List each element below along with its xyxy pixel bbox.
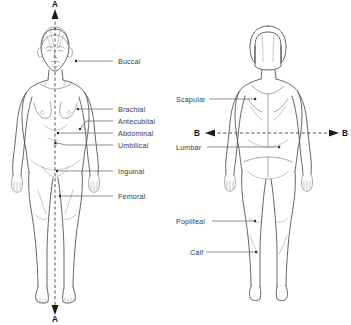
hair-strand-3 (57, 29, 60, 47)
posterior-leg-left-inner (260, 179, 266, 287)
anterior-breast-left (34, 102, 51, 118)
anterior-knee-right (64, 214, 76, 219)
leader-dot (255, 251, 258, 254)
posterior-foot-left (250, 286, 261, 301)
posterior-neck-left (261, 70, 262, 79)
anterior-toes-left (37, 299, 46, 303)
anterior-leg-left-outer (29, 172, 38, 287)
hair-strand-4 (59, 32, 65, 48)
anterior-breast-right (60, 102, 77, 118)
posterior-hair-part-2 (273, 35, 274, 62)
posterior-hair-part-1 (262, 35, 263, 62)
anterior-callouts: Buccal Brachial Antecubital Abdominal (54, 57, 155, 201)
posterior-popliteal-right (277, 218, 288, 222)
hair-strand-2 (50, 29, 54, 47)
posterior-trapezius (252, 86, 284, 94)
anterior-neck-right (62, 70, 63, 80)
callout-popliteal: Popliteal (176, 217, 256, 226)
label-abdominal: Abdominal (118, 129, 154, 138)
posterior-leg-right-inner (271, 179, 277, 287)
posterior-leg-left-outer (242, 171, 251, 286)
label-antecubital: Antecubital (118, 117, 155, 126)
callout-buccal: Buccal (75, 57, 141, 66)
anterior-leg-right-outer (73, 172, 82, 287)
callout-abdominal: Abdominal (57, 129, 154, 138)
posterior-fingers-right (304, 181, 310, 190)
plane-a-arrow-bottom (52, 305, 59, 315)
callout-umbilical: Umbilical (54, 141, 149, 150)
anterior-nipple-left (40, 111, 43, 114)
posterior-calf-right (279, 236, 287, 254)
anterior-arm-right-outer (85, 93, 98, 175)
label-buccal: Buccal (118, 57, 141, 66)
anterior-hip-line (31, 160, 80, 170)
anterior-ribcage (44, 125, 67, 130)
label-femoral: Femoral (118, 192, 146, 201)
callout-brachial: Brachial (77, 105, 146, 114)
posterior-scapula-right (274, 99, 288, 112)
posterior-lumbar-right (268, 140, 288, 147)
posterior-head (255, 46, 281, 70)
posterior-foot-right (276, 286, 287, 301)
posterior-lumbar-left (248, 140, 268, 147)
anatomy-figures-svg: A A B B Buccal Brachial Antecubital (0, 0, 351, 325)
leader-dot (79, 128, 82, 131)
anterior-foot-left (36, 287, 49, 303)
anterior-abdomen-crease (48, 138, 58, 140)
posterior-callouts: Scapular Lumbar Popliteal Calf (176, 95, 280, 257)
anterior-figure (12, 9, 100, 315)
posterior-figure (205, 26, 339, 301)
posterior-fingers-left (227, 181, 233, 190)
leader-dot (56, 170, 59, 173)
plane-b-arrow-right (329, 130, 339, 137)
label-umbilical: Umbilical (118, 141, 149, 150)
anterior-chin-crease (52, 66, 59, 67)
leader-dot (59, 195, 62, 198)
leader-dot (278, 146, 281, 149)
anterior-eye-right (58, 50, 63, 51)
anterior-brow-left (46, 47, 53, 49)
anterior-toes-right (65, 299, 74, 303)
anterior-leg-right-inner (58, 178, 64, 288)
label-brachial: Brachial (118, 105, 145, 114)
label-popliteal: Popliteal (176, 217, 205, 226)
anterior-brow-right (57, 47, 64, 49)
label-inguinal: Inguinal (118, 167, 145, 176)
anterior-arm-left-outer (13, 93, 26, 175)
posterior-neck-right (275, 70, 276, 79)
posterior-scapula-left (248, 99, 262, 112)
leader-dot (254, 220, 257, 223)
posterior-gluteal-fold-r (268, 172, 288, 179)
callout-calf: Calf (190, 248, 257, 257)
anterior-foot-right (63, 287, 76, 303)
hair-strand-1 (45, 32, 51, 48)
label-scapular: Scapular (176, 95, 206, 104)
plane-a-arrow-top (52, 9, 59, 19)
anterior-clavicle-tick-r (64, 82, 65, 86)
leader-dot (77, 108, 80, 111)
anterior-inguinal-left (42, 166, 55, 177)
plane-b-label-right: B (342, 129, 348, 138)
callout-inguinal: Inguinal (56, 167, 145, 176)
anterior-nipple-right (67, 111, 70, 114)
plane-b-label-left: B (194, 129, 200, 138)
anterior-thigh-right (65, 190, 73, 214)
anterior-nose (54, 50, 57, 58)
anterior-clavicle (40, 84, 71, 89)
plane-b-arrow-left (205, 130, 215, 137)
leader-dot (75, 60, 78, 63)
leader-dot (54, 142, 57, 145)
plane-a-label-bottom: A (52, 315, 58, 324)
posterior-gluteal-fold-l (248, 172, 268, 179)
posterior-leg-right-outer (286, 171, 295, 286)
leader-dot (57, 132, 60, 135)
leader-dot (254, 98, 257, 101)
leader-line-bend (57, 143, 66, 145)
anterior-thigh-left (38, 190, 46, 214)
label-lumbar: Lumbar (176, 143, 202, 152)
anterior-knee-left (35, 214, 47, 219)
plane-a-label-top: A (52, 0, 58, 9)
anterior-clavicle-tick-l (45, 82, 46, 86)
anterior-leg-left-inner (47, 178, 53, 288)
label-calf: Calf (190, 248, 203, 257)
